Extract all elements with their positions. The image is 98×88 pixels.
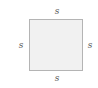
side-label-bottom: s	[53, 74, 61, 83]
side-label-left: s	[17, 41, 25, 50]
side-label-top: s	[53, 7, 61, 16]
side-label-right: s	[86, 41, 94, 50]
square-shape	[29, 19, 83, 71]
